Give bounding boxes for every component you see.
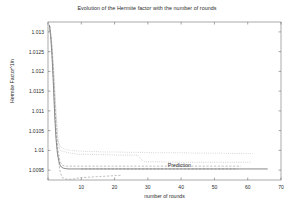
prediction-annotation: Prediction [168, 162, 191, 168]
chart-figure: Evolution of the Hermite factor with the… [0, 0, 294, 211]
series-line [49, 25, 267, 169]
y-tick-label: 1.012 [18, 68, 44, 74]
y-axis-label: Hermite Factor^1/n [9, 55, 15, 107]
y-tick-label: 1.0105 [18, 128, 44, 134]
x-tick-label: 30 [140, 184, 156, 190]
tick-marks [48, 22, 281, 180]
y-tick-label: 1.0115 [18, 88, 44, 94]
series-line [50, 27, 251, 162]
x-tick-label: 10 [73, 184, 89, 190]
x-tick-label: 40 [173, 184, 189, 190]
y-tick-label: 1.013 [18, 29, 44, 35]
x-tick-label: 60 [240, 184, 256, 190]
y-tick-label: 1.011 [18, 108, 44, 114]
y-tick-label: 1.0095 [18, 167, 44, 173]
series-line [50, 28, 253, 154]
plot-frame [48, 22, 281, 180]
y-tick-label: 1.0125 [18, 49, 44, 55]
plot-canvas [0, 0, 294, 211]
y-tick-label: 1.01 [18, 147, 44, 153]
series-paths [49, 25, 267, 179]
x-axis-label: number of rounds [48, 193, 281, 199]
x-tick-label: 50 [206, 184, 222, 190]
series-line [50, 26, 122, 179]
x-tick-label: 70 [273, 184, 289, 190]
series-line [50, 26, 241, 167]
x-tick-label: 20 [107, 184, 123, 190]
